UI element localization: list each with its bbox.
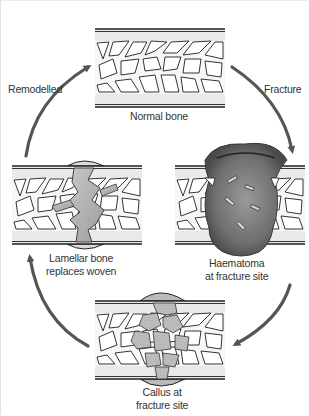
- arrow-remodelled: [26, 67, 88, 156]
- arrow-fracture: [232, 67, 292, 150]
- label-remodelled: Remodelled: [8, 83, 62, 96]
- healing-cycle-diagram: [0, 0, 309, 416]
- normal-bone: [95, 29, 225, 107]
- label-normal-bone: Normal bone: [130, 110, 188, 123]
- label-callus: Callus at fracture site: [136, 386, 188, 411]
- label-fracture: Fracture: [264, 83, 302, 96]
- callus-bone: [95, 293, 225, 386]
- arrow-to-callus: [236, 285, 290, 344]
- haematoma-bone: [175, 143, 305, 256]
- lamellar-bone: [12, 161, 142, 249]
- label-haematoma: Haematoma at fracture site: [205, 257, 268, 282]
- label-lamellar-bone: Lamellar bone replaces woven: [46, 252, 116, 277]
